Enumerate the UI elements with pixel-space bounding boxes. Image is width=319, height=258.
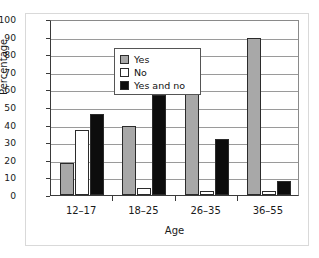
- bar-36-55-no: [262, 191, 276, 195]
- y-tick-label: 100: [0, 15, 16, 24]
- legend-item-no: No: [120, 66, 195, 79]
- y-tick-mark: [46, 196, 50, 197]
- bar-26-35-yes-and-no: [215, 139, 229, 195]
- y-tick-label: 50: [0, 103, 16, 112]
- gridline: [51, 39, 298, 40]
- y-tick-label: 60: [0, 85, 16, 94]
- x-tick-label: 12–17: [51, 205, 111, 216]
- legend-swatch-yes-icon: [120, 55, 129, 64]
- bar-36-55-yes: [247, 38, 261, 195]
- bar-chart-figure: Percentage 0102030405060708090100 Yes No…: [0, 0, 319, 258]
- legend-item-yes: Yes: [120, 53, 195, 66]
- y-tick-label: 70: [0, 68, 16, 77]
- y-tick-label: 90: [0, 33, 16, 42]
- legend: Yes No Yes and no: [114, 48, 201, 95]
- x-tick-label: 18–25: [113, 205, 173, 216]
- legend-label-yes-and-no: Yes and no: [134, 80, 185, 91]
- bar-26-35-yes: [185, 79, 199, 195]
- y-tick-label: 10: [0, 173, 16, 182]
- x-tick-mark: [175, 196, 176, 201]
- legend-swatch-no-icon: [120, 68, 129, 77]
- x-tick-mark: [112, 196, 113, 201]
- bar-12-17-yes: [60, 163, 74, 195]
- bar-26-35-no: [200, 191, 214, 195]
- bar-18-25-no: [137, 188, 151, 195]
- y-tick-label: 0: [0, 191, 16, 200]
- bar-18-25-yes-and-no: [152, 95, 166, 195]
- bar-36-55-yes-and-no: [277, 181, 291, 195]
- legend-swatch-yes-and-no-icon: [120, 81, 129, 90]
- legend-label-yes: Yes: [134, 54, 149, 65]
- bar-12-17-yes-and-no: [90, 114, 104, 195]
- bar-12-17-no: [75, 130, 89, 195]
- gridline: [51, 127, 298, 128]
- plot-area: Yes No Yes and no: [50, 20, 299, 196]
- legend-item-yes-and-no: Yes and no: [120, 79, 195, 92]
- x-tick-label: 36–55: [238, 205, 298, 216]
- y-tick-label: 40: [0, 121, 16, 130]
- x-tick-label: 26–35: [176, 205, 236, 216]
- x-tick-mark: [237, 196, 238, 201]
- gridline: [51, 109, 298, 110]
- x-axis-label: Age: [50, 225, 299, 236]
- legend-label-no: No: [134, 67, 147, 78]
- y-tick-label: 80: [0, 50, 16, 59]
- bar-18-25-yes: [122, 126, 136, 195]
- y-tick-label: 20: [0, 156, 16, 165]
- y-tick-label: 30: [0, 138, 16, 147]
